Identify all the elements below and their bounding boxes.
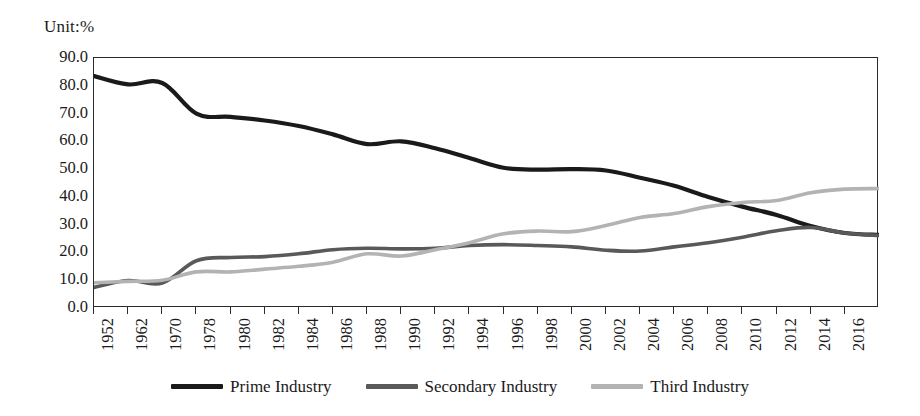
- x-tick-mark: [366, 307, 367, 314]
- series-line: [94, 76, 879, 235]
- x-tick-mark: [605, 307, 606, 314]
- y-tick-label: 10.0: [59, 271, 88, 288]
- legend-item[interactable]: Third Industry: [591, 378, 749, 395]
- x-tick-label: 1980: [237, 318, 254, 351]
- x-tick-mark: [468, 307, 469, 314]
- series-lines: [94, 58, 879, 308]
- y-tick-label: 90.0: [59, 49, 88, 66]
- x-tick-label: 1962: [134, 318, 151, 351]
- x-tick-mark: [93, 307, 94, 314]
- x-tick-mark: [264, 307, 265, 314]
- x-tick-mark: [776, 307, 777, 314]
- x-tick-mark: [810, 307, 811, 314]
- legend-swatch-icon: [366, 384, 418, 389]
- industry-share-line-chart: Unit:% 0.010.020.030.040.050.060.070.080…: [0, 0, 920, 416]
- x-tick-label: 2016: [851, 318, 868, 351]
- x-tick-label: 2004: [646, 318, 663, 351]
- x-tick-mark: [434, 307, 435, 314]
- x-tick-mark: [195, 307, 196, 314]
- chart-legend: Prime IndustrySecondary IndustryThird In…: [0, 378, 920, 395]
- y-tick-label: 40.0: [59, 188, 88, 205]
- x-tick-label: 1984: [305, 318, 322, 351]
- x-tick-mark: [707, 307, 708, 314]
- x-tick-label: 2014: [817, 318, 834, 351]
- x-tick-mark: [673, 307, 674, 314]
- series-line: [94, 189, 879, 283]
- plot-area: [93, 57, 878, 307]
- x-tick-mark: [127, 307, 128, 314]
- x-tick-label: 2010: [748, 318, 765, 351]
- x-tick-mark: [298, 307, 299, 314]
- y-tick-label: 60.0: [59, 132, 88, 149]
- y-tick-label: 30.0: [59, 216, 88, 233]
- x-tick-label: 1998: [544, 318, 561, 351]
- legend-label: Secondary Industry: [425, 378, 558, 395]
- x-tick-label: 1970: [168, 318, 185, 351]
- x-tick-label: 2008: [714, 318, 731, 351]
- legend-item[interactable]: Prime Industry: [171, 378, 332, 395]
- legend-label: Third Industry: [650, 378, 749, 395]
- y-tick-label: 50.0: [59, 160, 88, 177]
- x-tick-label: 1996: [510, 318, 527, 351]
- y-tick-label: 0.0: [67, 299, 88, 316]
- x-tick-label: 2000: [578, 318, 595, 351]
- x-tick-label: 1994: [475, 318, 492, 351]
- x-tick-mark: [639, 307, 640, 314]
- x-tick-label: 1992: [441, 318, 458, 351]
- y-axis: 0.010.020.030.040.050.060.070.080.090.0: [0, 0, 88, 416]
- x-tick-mark: [230, 307, 231, 314]
- x-tick-label: 1988: [373, 318, 390, 351]
- x-tick-mark: [161, 307, 162, 314]
- x-tick-mark: [741, 307, 742, 314]
- legend-swatch-icon: [171, 384, 223, 389]
- x-tick-label: 1978: [202, 318, 219, 351]
- x-tick-label: 1986: [339, 318, 356, 351]
- y-tick-label: 80.0: [59, 77, 88, 94]
- x-tick-label: 1990: [407, 318, 424, 351]
- x-tick-mark: [571, 307, 572, 314]
- x-tick-mark: [400, 307, 401, 314]
- x-tick-label: 1952: [100, 318, 117, 351]
- x-tick-mark: [332, 307, 333, 314]
- legend-item[interactable]: Secondary Industry: [366, 378, 558, 395]
- y-tick-label: 70.0: [59, 105, 88, 122]
- x-tick-mark: [844, 307, 845, 314]
- x-tick-label: 2012: [783, 318, 800, 351]
- x-tick-label: 2002: [612, 318, 629, 351]
- x-tick-label: 2006: [680, 318, 697, 351]
- legend-label: Prime Industry: [230, 378, 332, 395]
- y-tick-label: 20.0: [59, 243, 88, 260]
- x-tick-label: 1982: [271, 318, 288, 351]
- legend-swatch-icon: [591, 384, 643, 389]
- x-tick-mark: [537, 307, 538, 314]
- x-tick-mark: [503, 307, 504, 314]
